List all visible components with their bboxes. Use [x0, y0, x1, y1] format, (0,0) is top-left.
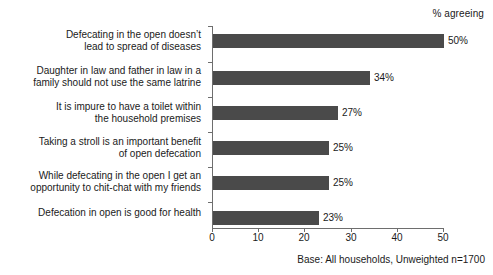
category-label: Daughter in law and father in law in a f…	[0, 65, 201, 89]
value-axis-tick-label: 30	[345, 232, 356, 243]
value-axis-tick-label: 10	[252, 232, 263, 243]
bar-segment	[213, 34, 444, 48]
category-axis-line	[212, 26, 213, 228]
bar-segment	[213, 211, 319, 225]
category-label: It is impure to have a toilet within the…	[0, 101, 201, 125]
value-axis-tick-label: 20	[298, 232, 309, 243]
value-axis-tick-label: 40	[391, 232, 402, 243]
category-label: While defecating in the open I get an op…	[0, 170, 201, 194]
value-axis-tick-label: 50	[437, 232, 448, 243]
category-label: Taking a stroll is an important benefit …	[0, 136, 201, 160]
category-label-column: Defecating in the open doesn’t lead to s…	[0, 0, 207, 275]
bar-value-label: 27%	[342, 106, 362, 120]
value-axis-line	[212, 228, 443, 229]
bar-segment	[213, 141, 329, 155]
bar-value-label: 25%	[333, 141, 353, 155]
bar-segment	[213, 71, 370, 85]
bar-value-label: 25%	[333, 176, 353, 190]
value-axis-tick-label: 0	[209, 232, 215, 243]
percent-agreeing-note: % agreeing	[432, 8, 484, 19]
category-axis-tick	[208, 202, 212, 203]
category-axis-tick	[208, 132, 212, 133]
base-footnote: Base: All households, Unweighted n=1700	[297, 254, 485, 265]
category-axis-tick	[208, 167, 212, 168]
category-axis-tick	[208, 97, 212, 98]
category-axis-tick	[208, 62, 212, 63]
category-label: Defecation in open is good for health	[0, 207, 201, 219]
bar-value-label: 50%	[448, 34, 468, 48]
category-label: Defecating in the open doesn’t lead to s…	[0, 29, 201, 53]
bar-value-label: 34%	[374, 71, 394, 85]
bar-segment	[213, 106, 338, 120]
bar-segment	[213, 176, 329, 190]
category-axis-tick	[208, 26, 212, 27]
bar-chart-plot-area: 50% 34% 27% 25% 25% 23% 0 10 20 30 40 50	[212, 26, 443, 228]
bar-value-label: 23%	[323, 211, 343, 225]
